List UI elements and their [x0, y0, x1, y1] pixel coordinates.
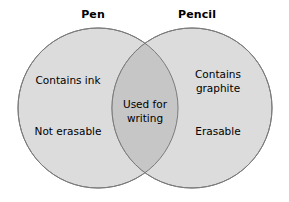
venn-set-title-left: Pen — [53, 8, 133, 21]
venn-diagram: Pen Pencil Contains ink Not erasable Use… — [0, 0, 289, 202]
venn-item-left-contains-ink: Contains ink — [16, 74, 120, 87]
venn-item-right-erasable: Erasable — [176, 125, 260, 138]
venn-item-right-contains-graphite: Contains graphite — [176, 67, 260, 95]
venn-item-left-not-erasable: Not erasable — [14, 125, 122, 138]
venn-set-title-right: Pencil — [157, 8, 237, 21]
venn-item-center-used-for-writing: Used for writing — [116, 97, 174, 125]
